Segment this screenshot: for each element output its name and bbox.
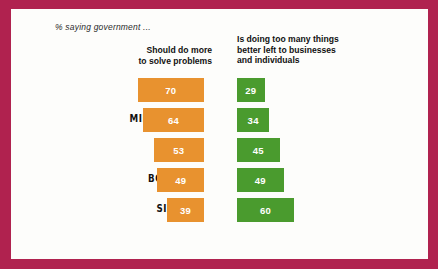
- bar-left-value: 39: [180, 205, 191, 216]
- bar-left: 70: [138, 78, 205, 102]
- chart-row: MILLENNIAL6434: [11, 108, 428, 138]
- bar-left-value: 70: [165, 85, 176, 96]
- column-header-right: Is doing too many things better left to …: [237, 34, 402, 66]
- poster-border: % saying government ... Should do more t…: [0, 0, 438, 269]
- bar-right-value: 34: [248, 115, 259, 126]
- bar-left-value: 64: [168, 115, 179, 126]
- bar-left: 64: [143, 108, 204, 132]
- column-headers: Should do more to solve problems Is doin…: [11, 31, 428, 71]
- chart-row: BOOMER4949: [11, 168, 428, 198]
- column-header-left: Should do more to solve problems: [62, 45, 212, 66]
- bar-left-value: 49: [175, 175, 186, 186]
- chart-row: SILENT3960: [11, 198, 428, 228]
- bar-right-value: 49: [255, 175, 266, 186]
- chart-card: % saying government ... Should do more t…: [11, 9, 428, 259]
- bar-right: 60: [237, 198, 294, 222]
- column-header-left-line1: Should do more: [62, 45, 212, 56]
- bar-right: 49: [237, 168, 284, 192]
- bar-left: 53: [154, 138, 204, 162]
- bar-left: 39: [167, 198, 204, 222]
- bar-right-value: 45: [253, 145, 264, 156]
- chart-rows: GEN Z7029MILLENNIAL6434GEN X5345BOOMER49…: [11, 78, 428, 228]
- bar-right-value: 60: [260, 205, 271, 216]
- column-header-right-line3: and individuals: [237, 55, 402, 66]
- column-header-right-line2: better left to businesses: [237, 45, 402, 56]
- column-header-left-line2: to solve problems: [62, 56, 212, 67]
- bar-left: 49: [157, 168, 204, 192]
- bar-right: 45: [237, 138, 280, 162]
- bar-right-value: 29: [245, 85, 256, 96]
- chart-row: GEN X5345: [11, 138, 428, 168]
- bar-left-value: 53: [173, 145, 184, 156]
- column-header-right-line1: Is doing too many things: [237, 34, 402, 45]
- bar-right: 34: [237, 108, 269, 132]
- chart-row: GEN Z7029: [11, 78, 428, 108]
- bar-right: 29: [237, 78, 265, 102]
